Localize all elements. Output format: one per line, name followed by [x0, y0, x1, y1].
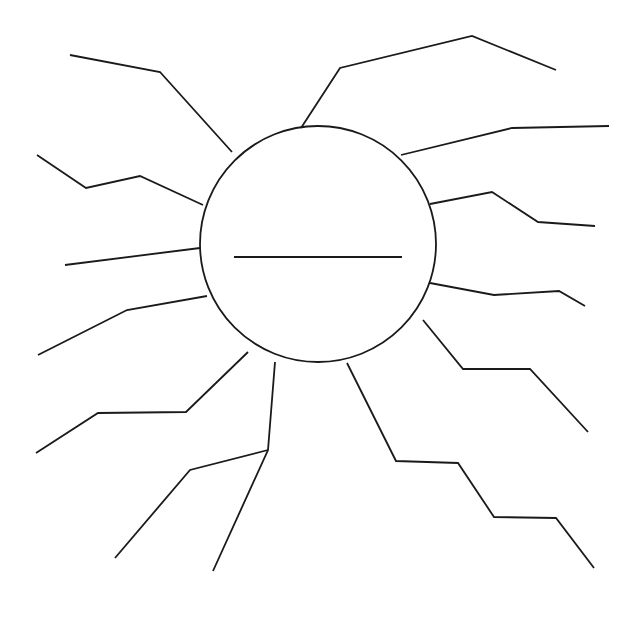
diagram-canvas [0, 0, 635, 623]
radial-diagram [0, 0, 635, 623]
canvas-background [0, 0, 635, 623]
